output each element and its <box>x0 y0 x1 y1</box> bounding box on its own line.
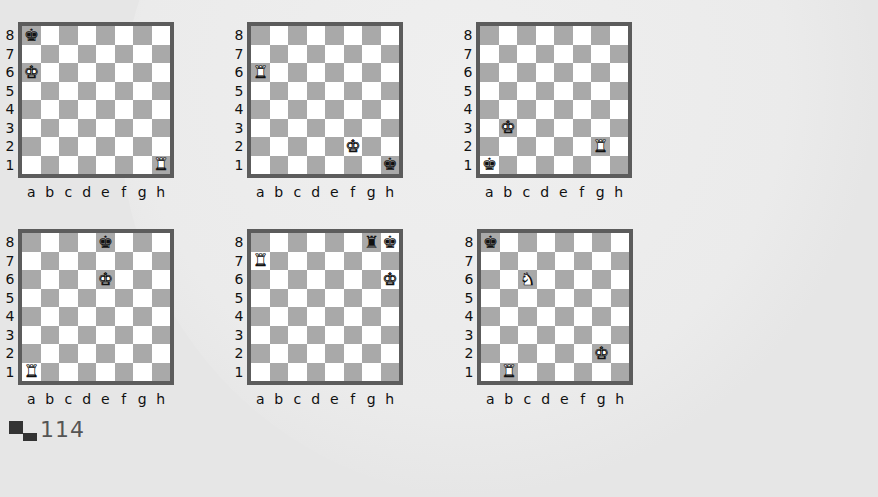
file-label: g <box>133 391 152 407</box>
square-h7 <box>381 45 400 64</box>
file-label: a <box>22 184 41 200</box>
square-a7 <box>481 252 500 271</box>
square-c5 <box>517 82 536 101</box>
square-f1 <box>115 363 134 382</box>
square-a8: ♚ <box>481 233 500 252</box>
square-e5 <box>96 289 115 308</box>
square-b2 <box>270 137 289 156</box>
rank-label: 8 <box>4 233 16 252</box>
square-g1 <box>592 363 611 382</box>
rank-label: 8 <box>233 233 245 252</box>
file-label: c <box>59 391 78 407</box>
square-b8 <box>270 233 289 252</box>
square-g8 <box>362 26 381 45</box>
file-labels: abcdefgh <box>481 391 629 407</box>
file-label: a <box>480 184 499 200</box>
rank-label: 2 <box>4 344 16 363</box>
file-label: a <box>251 184 270 200</box>
square-g5 <box>592 289 611 308</box>
square-b6 <box>270 270 289 289</box>
square-g8 <box>591 26 610 45</box>
square-f6 <box>115 63 134 82</box>
file-label: b <box>499 184 518 200</box>
square-c2 <box>517 137 536 156</box>
white-king-icon: ♚ <box>24 64 39 81</box>
square-c2 <box>518 344 537 363</box>
square-a4 <box>22 307 41 326</box>
rank-label: 1 <box>4 156 16 175</box>
square-a5 <box>22 82 41 101</box>
square-g4 <box>133 100 152 119</box>
square-c3 <box>59 119 78 138</box>
square-c7 <box>288 45 307 64</box>
square-c4 <box>59 307 78 326</box>
file-labels: abcdefgh <box>22 391 170 407</box>
square-f4 <box>115 307 134 326</box>
file-label: d <box>307 391 326 407</box>
square-d4 <box>307 307 326 326</box>
page-marker-square-icon <box>9 421 23 434</box>
square-h6 <box>610 63 629 82</box>
square-e4 <box>96 100 115 119</box>
square-b6 <box>41 63 60 82</box>
square-b3 <box>270 119 289 138</box>
chessboard: ♚♞♚♜ <box>477 229 633 385</box>
square-d1 <box>307 156 326 175</box>
square-e7 <box>555 252 574 271</box>
square-f6 <box>344 270 363 289</box>
square-b8 <box>500 233 519 252</box>
square-b7 <box>270 252 289 271</box>
square-g4 <box>362 307 381 326</box>
square-b3: ♚ <box>499 119 518 138</box>
square-e4 <box>325 100 344 119</box>
square-a1 <box>22 156 41 175</box>
file-label: b <box>500 391 519 407</box>
rank-label: 5 <box>233 289 245 308</box>
square-g2 <box>133 344 152 363</box>
square-c4 <box>288 100 307 119</box>
square-d2 <box>78 344 97 363</box>
square-e4 <box>96 307 115 326</box>
square-f8 <box>115 26 134 45</box>
rank-label: 7 <box>233 252 245 271</box>
square-f7 <box>115 45 134 64</box>
rank-label: 8 <box>462 26 474 45</box>
square-a4 <box>22 100 41 119</box>
square-g8 <box>592 233 611 252</box>
square-d3 <box>307 119 326 138</box>
square-d7 <box>307 252 326 271</box>
square-a1 <box>481 363 500 382</box>
square-a5 <box>481 289 500 308</box>
square-a2 <box>480 137 499 156</box>
square-f5 <box>573 82 592 101</box>
square-f4 <box>573 100 592 119</box>
square-d8 <box>307 233 326 252</box>
square-a3 <box>22 119 41 138</box>
square-c6 <box>59 63 78 82</box>
square-e7 <box>325 45 344 64</box>
rank-label: 6 <box>4 63 16 82</box>
square-g6 <box>362 63 381 82</box>
square-b1 <box>499 156 518 175</box>
file-label: g <box>362 391 381 407</box>
square-b2 <box>41 344 60 363</box>
square-h4 <box>152 307 171 326</box>
square-g4 <box>133 307 152 326</box>
square-d3 <box>78 326 97 345</box>
square-b5 <box>499 82 518 101</box>
square-g5 <box>133 289 152 308</box>
square-h6 <box>152 63 171 82</box>
square-e2 <box>325 137 344 156</box>
square-d5 <box>78 82 97 101</box>
square-a2 <box>251 344 270 363</box>
rank-label: 1 <box>463 363 475 382</box>
rank-label: 7 <box>463 252 475 271</box>
rank-label: 6 <box>4 270 16 289</box>
white-king-icon: ♚ <box>98 271 113 288</box>
square-a8 <box>480 26 499 45</box>
square-a4 <box>251 100 270 119</box>
rank-label: 3 <box>233 326 245 345</box>
square-a3 <box>251 119 270 138</box>
square-f1 <box>574 363 593 382</box>
file-label: d <box>537 391 556 407</box>
